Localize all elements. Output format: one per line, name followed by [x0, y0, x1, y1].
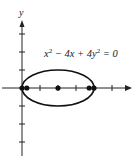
ellipse-plot: y x2 − 4x + 4y2 = 0 [0, 0, 136, 156]
y-axis-arrow-icon [20, 20, 25, 27]
point-left-vertex [19, 85, 24, 90]
x-axis-arrow-icon [125, 85, 132, 91]
point-center [55, 85, 60, 90]
point-focus-2 [87, 85, 92, 90]
equation-annotation: x2 − 4x + 4y2 = 0 [43, 47, 119, 59]
point-focus-1 [24, 85, 29, 90]
point-right-vertex [91, 85, 96, 90]
y-axis-label: y [18, 7, 24, 18]
